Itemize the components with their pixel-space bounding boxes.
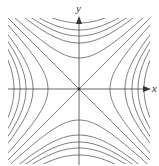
hyperbola-left [0,0,33,166]
hyperbola-bottom [0,120,159,166]
y-axis-arrow-icon [76,16,82,24]
hyperbola-left [0,0,48,166]
hyperbola-left [0,0,26,166]
hyperbola-curves [0,0,159,166]
hyperbola-bottom [0,135,159,166]
x-axis-arrow-icon [143,86,151,92]
hyperbola-bottom [0,148,159,166]
hyperbola-left [0,0,14,166]
x-axis-label: x [152,83,157,94]
origin-point [78,88,81,91]
hyperbola-diagram [0,0,159,166]
y-axis-label: y [76,3,81,14]
